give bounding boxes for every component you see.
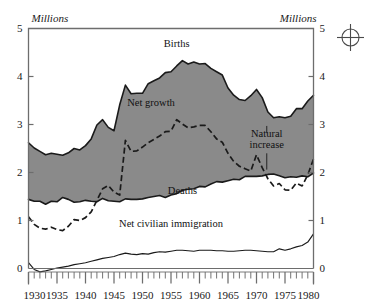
annotation-net-growth: Net growth <box>127 97 175 108</box>
annotation-deaths: Deaths <box>168 185 197 196</box>
x-axis-tick-label: 1955 <box>160 289 183 301</box>
y-axis-tick-label-left: 2 <box>17 166 23 178</box>
population-components-chart: 0011223344551930193519401945195019551960… <box>0 0 371 304</box>
y-axis-tick-label-left: 5 <box>17 22 23 34</box>
y-axis-tick-label-left: 3 <box>17 118 23 130</box>
x-axis-tick-label: 1965 <box>217 289 240 301</box>
registration-crosshair-icon <box>337 24 364 51</box>
x-axis-tick-label: 1945 <box>103 289 126 301</box>
y-axis-tick-label-left: 4 <box>17 70 23 82</box>
y-axis-tick-label-right: 4 <box>320 70 326 82</box>
chart-figure: 0011223344551930193519401945195019551960… <box>0 0 371 304</box>
x-axis-tick-label: 1940 <box>75 289 98 301</box>
right-axis-unit-label: Millions <box>279 12 317 24</box>
y-axis-tick-label-right: 2 <box>320 166 326 178</box>
annotation-natural-increase-line2: increase <box>250 139 285 150</box>
x-axis-tick-label: 1930 <box>24 289 47 301</box>
x-axis-tick-label: 1950 <box>132 289 155 301</box>
x-axis-tick-label: 1970 <box>246 289 269 301</box>
y-axis-tick-label-left: 0 <box>17 262 23 274</box>
y-axis-tick-label-left: 1 <box>17 214 23 226</box>
x-axis-tick-label: 1935 <box>46 289 69 301</box>
left-axis-unit-label: Millions <box>31 12 69 24</box>
y-axis-tick-label-right: 5 <box>320 22 326 34</box>
net-civilian-immigration-line <box>29 234 314 272</box>
y-axis-tick-label-right: 0 <box>320 262 326 274</box>
x-axis-tick-label: 1975 <box>274 289 297 301</box>
annotation-net-civilian-immigration: Net civilian immigration <box>119 218 224 229</box>
x-axis-tick-label: 1960 <box>189 289 212 301</box>
annotation-births: Births <box>164 38 190 49</box>
y-axis-tick-label-right: 1 <box>320 214 326 226</box>
x-axis-tick-label: 1980 <box>298 289 321 301</box>
y-axis-tick-label-right: 3 <box>320 118 326 130</box>
